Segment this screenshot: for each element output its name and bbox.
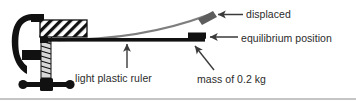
mass-block bbox=[188, 33, 206, 39]
label-equilibrium-position: equilibrium position bbox=[241, 32, 332, 44]
clamp-body bbox=[12, 14, 42, 74]
label-light-plastic-ruler: light plastic ruler bbox=[75, 72, 152, 84]
diagram-canvas: displaced equilibrium position light pla… bbox=[0, 0, 356, 104]
label-displaced: displaced bbox=[246, 8, 291, 20]
hatched-block bbox=[40, 20, 87, 37]
displaced-mass-block bbox=[198, 11, 217, 25]
clamp-handle bbox=[18, 78, 74, 91]
diagram-svg bbox=[0, 0, 356, 104]
label-mass: mass of 0.2 kg bbox=[197, 73, 266, 85]
mass-arrow bbox=[195, 46, 214, 70]
